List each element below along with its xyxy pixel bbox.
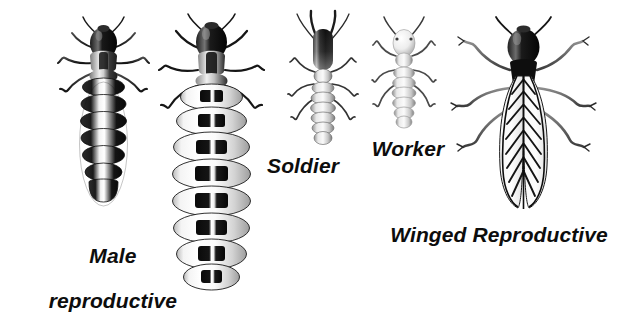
worker-thorax — [396, 53, 413, 67]
worker-abdomen — [392, 67, 416, 128]
label-male-reproductive-line1: Male — [89, 244, 136, 267]
specimen-male-reproductive — [56, 16, 151, 211]
soldier-thorax — [314, 69, 332, 83]
alate-wings — [500, 74, 548, 209]
label-male-reproductive-line2: reproductive — [49, 289, 177, 312]
male-abdomen — [81, 78, 127, 202]
specimen-soldier — [288, 10, 358, 152]
soldier-abdomen — [311, 82, 336, 145]
label-winged-reproductive: Winged Reproductive — [375, 224, 623, 247]
label-male-reproductive: Male reproductive — [20, 222, 182, 316]
specimen-winged-reproductive — [446, 16, 601, 216]
label-soldier: Soldier — [249, 155, 357, 178]
specimen-worker — [372, 16, 436, 136]
worker-head — [393, 30, 415, 57]
label-worker: Worker — [353, 138, 463, 161]
